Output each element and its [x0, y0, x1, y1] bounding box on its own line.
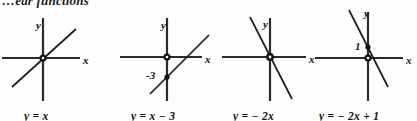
y-axis-label: y	[364, 8, 369, 19]
graph-svg-y-equals-minus-2x	[218, 8, 322, 104]
y-intercept-marker	[365, 44, 370, 49]
equation-label: y = − 2x + 1	[319, 111, 379, 121]
origin-marker-center	[42, 57, 45, 60]
x-axis-label: x	[406, 55, 412, 66]
graph-panel-y-equals-minus-2x-plus-1: y x 1 y = − 2x + 1	[313, 8, 417, 121]
y-intercept-marker	[164, 74, 169, 79]
y-axis-label: y	[36, 20, 41, 31]
origin-marker-center	[166, 56, 169, 59]
graph-panel-y-equals-x-minus-3: y x -3 y = x − 3	[118, 8, 222, 121]
graph-svg-y-equals-minus-2x-plus-1	[313, 8, 417, 104]
equation-label: y = x	[24, 111, 49, 121]
y-axis-label: y	[263, 19, 268, 30]
graph-panel-y-equals-x: y x y = x	[0, 8, 104, 121]
y-intercept-label: -3	[146, 70, 155, 81]
figure-linear-functions: …ear functions y x y = x y x	[0, 0, 417, 121]
x-axis-label: x	[205, 54, 211, 65]
x-axis-label: x	[83, 55, 89, 66]
graph-panel-y-equals-minus-2x: y x y = − 2x	[218, 8, 322, 121]
equation-label: y = − 2x	[233, 111, 274, 121]
y-axis-label: y	[161, 20, 166, 31]
origin-marker-center	[269, 56, 272, 59]
y-intercept-label: 1	[355, 41, 361, 52]
origin-marker-center	[367, 57, 370, 60]
equation-label: y = x − 3	[131, 111, 175, 121]
function-line	[150, 35, 209, 94]
